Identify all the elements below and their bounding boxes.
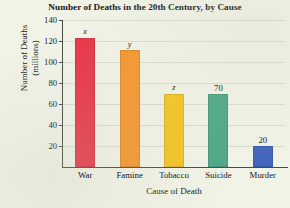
y-axis-tick-label: 40 (48, 121, 57, 130)
y-axis-tick (59, 41, 63, 42)
x-axis-label-famine: Famine (116, 171, 142, 180)
bar-value-label: 70 (214, 84, 223, 93)
gridline (63, 41, 285, 42)
bar-value-label: x (83, 28, 87, 36)
y-axis-title-line-2: (millions) (30, 10, 41, 106)
y-axis-tick (59, 83, 63, 84)
gridline (63, 62, 285, 63)
y-axis-tick (59, 125, 63, 126)
y-axis-tick (59, 20, 63, 21)
x-axis-label-tobacco: Tobacco (159, 171, 189, 180)
gridline (63, 20, 285, 21)
y-axis-tick-label: 20 (48, 142, 57, 151)
x-axis-label-murder: Murder (250, 171, 276, 180)
x-axis-label-war: War (78, 171, 92, 180)
plot-area: 20406080100120140xyz7020 (63, 20, 285, 167)
bar-chart-figure: Number of Deaths in the 20th Century, by… (0, 0, 290, 208)
chart-title: Number of Deaths in the 20th Century, by… (0, 2, 290, 12)
bar-suicide: 70 (208, 94, 228, 168)
y-axis-title: Number of Deaths (millions) (19, 10, 43, 106)
x-axis-line (63, 167, 288, 168)
x-axis-label-suicide: Suicide (205, 171, 231, 180)
y-axis-tick (59, 104, 63, 105)
x-axis-title: Cause of Death (63, 186, 285, 196)
y-axis-tick (59, 62, 63, 63)
bar-value-label: z (172, 84, 175, 92)
y-axis-tick-label: 60 (48, 100, 57, 109)
bar-value-label: y (128, 41, 132, 49)
bar-war: x (75, 38, 95, 167)
bar-tobacco: z (164, 94, 184, 168)
bar-murder: 20 (253, 146, 273, 167)
y-axis-tick (59, 146, 63, 147)
bar-famine: y (120, 50, 140, 167)
y-axis-title-line-1: Number of Deaths (19, 10, 30, 106)
bar-value-label: 20 (258, 136, 267, 145)
y-axis-tick-label: 80 (48, 79, 57, 88)
y-axis-tick-label: 120 (44, 37, 57, 46)
y-axis-tick-label: 140 (44, 16, 57, 25)
y-axis-tick-label: 100 (44, 58, 57, 67)
